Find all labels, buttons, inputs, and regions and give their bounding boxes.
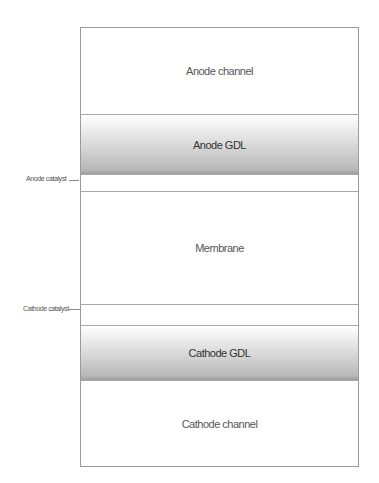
anode-gdl-label: Anode GDL — [193, 139, 246, 151]
anode-catalyst-layer — [81, 174, 358, 191]
anode-gdl-layer: Anode GDL — [81, 114, 358, 174]
cathode-gdl-layer: Cathode GDL — [81, 325, 358, 380]
anode-catalyst-label: Anode catalyst — [26, 175, 66, 182]
cathode-catalyst-leader-line — [68, 309, 80, 310]
fuel-cell-layer-stack: Anode channel Anode GDL Membrane Cathode… — [80, 27, 359, 467]
membrane-label: Membrane — [195, 242, 244, 254]
anode-channel-layer: Anode channel — [81, 28, 358, 114]
membrane-layer: Membrane — [81, 191, 358, 304]
cathode-catalyst-layer — [81, 304, 358, 325]
anode-catalyst-leader-line — [69, 180, 79, 181]
cathode-channel-layer: Cathode channel — [81, 380, 358, 466]
anode-channel-label: Anode channel — [186, 65, 253, 77]
cathode-gdl-label: Cathode GDL — [189, 347, 251, 359]
cathode-channel-label: Cathode channel — [182, 418, 258, 430]
cathode-catalyst-label: Cathode catalyst — [23, 305, 69, 312]
